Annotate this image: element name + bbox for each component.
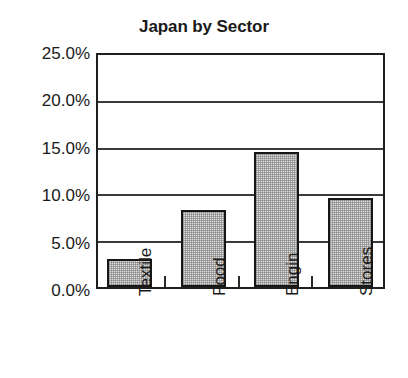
y-axis-tick-label-0: 0.0% — [4, 282, 90, 299]
x-axis-tick-2 — [238, 276, 240, 287]
x-axis-label-stores: Stores — [358, 247, 375, 296]
gridline-15 — [98, 148, 383, 150]
x-axis-label-food: Food — [211, 257, 228, 296]
x-axis-tick-1 — [164, 276, 166, 287]
y-axis-tick-label-10: 10.0% — [4, 187, 90, 204]
y-axis-tick-label-5: 5.0% — [4, 235, 90, 252]
chart-title: Japan by Sector — [0, 17, 408, 37]
x-axis-label-engin: Engin — [284, 253, 301, 296]
x-axis-label-textile: Textile — [137, 248, 154, 296]
x-axis-tick-3 — [311, 276, 313, 287]
y-axis-tick-label-20: 20.0% — [4, 92, 90, 109]
bar-chart: Japan by Sector 25.0% 20.0% 15.0% 10.0% … — [0, 0, 408, 378]
gridline-20 — [98, 101, 383, 103]
y-axis-tick-label-15: 15.0% — [4, 140, 90, 157]
y-axis-tick-label-25: 25.0% — [4, 45, 90, 62]
gridline-10 — [98, 194, 383, 196]
